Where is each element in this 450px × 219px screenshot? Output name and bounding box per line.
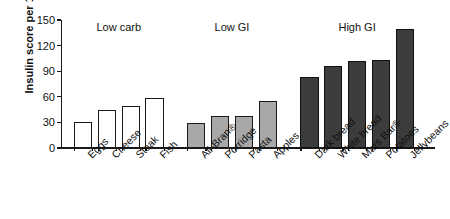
x-axis-labels: EggsCheeseSteakFishAll-Bran®PorridgePast… xyxy=(61,152,435,218)
y-tick-mark xyxy=(57,122,61,123)
bar-eggs xyxy=(74,122,92,148)
group-label-high-gi: High GI xyxy=(297,21,417,33)
y-axis-title: Insulin score per 1000 kJ xyxy=(23,0,35,113)
y-tick-label: 90 xyxy=(43,65,55,77)
group-label-low-gi: Low GI xyxy=(172,21,292,33)
y-tick-mark xyxy=(57,71,61,72)
group-label-low-carb: Low carb xyxy=(59,21,179,33)
x-tick-mark xyxy=(187,148,188,151)
y-tick-mark xyxy=(57,45,61,46)
y-tick-label: 150 xyxy=(37,14,55,26)
y-axis-line xyxy=(61,20,62,148)
x-tick-mark xyxy=(74,148,75,151)
y-tick-label: 60 xyxy=(43,91,55,103)
y-tick-mark xyxy=(57,147,61,148)
y-tick-label: 0 xyxy=(49,142,55,154)
y-tick-label: 30 xyxy=(43,116,55,128)
bar-dark-bread xyxy=(300,77,318,148)
bar-all-bran xyxy=(187,123,205,148)
x-tick-mark xyxy=(300,148,301,151)
y-tick-mark xyxy=(57,96,61,97)
y-tick-label: 120 xyxy=(37,40,55,52)
